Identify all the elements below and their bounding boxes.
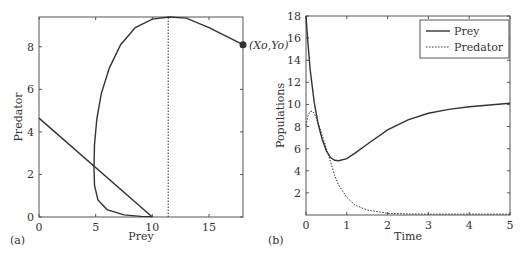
chart-panel-a: 05101502468PreyPredator(a)(Xo,Yo) [10,17,288,247]
figure: 05101502468PreyPredator(a)(Xo,Yo)0123452… [0,0,526,263]
x-tick-label: 4 [466,219,473,232]
legend-entry: Prey [454,25,480,38]
y-tick-label: 8 [294,121,301,134]
y-tick-label: 4 [294,165,301,178]
series-predator [306,111,510,214]
y-axis-label: Predator [12,92,25,142]
y-tick-label: 8 [27,41,34,54]
x-axis-label: Time [394,230,422,243]
x-tick-label: 0 [303,219,310,232]
y-tick-label: 10 [287,98,301,111]
y-tick-label: 18 [287,10,301,23]
annotation-label: (Xo,Yo) [249,39,288,52]
y-tick-label: 12 [287,76,301,89]
x-tick-label: 0 [36,221,43,234]
y-tick-label: 6 [27,83,34,96]
y-tick-label: 4 [27,126,34,139]
legend-entry: Predator [454,41,504,54]
y-tick-label: 16 [287,32,301,45]
y-axis-label: Populations [274,83,287,148]
x-tick-label: 5 [507,219,514,232]
x-tick-label: 2 [384,219,391,232]
y-tick-label: 2 [27,168,34,181]
x-tick-label: 3 [425,219,432,232]
y-tick-label: 14 [287,54,301,67]
x-tick-label: 15 [202,221,216,234]
chart-panel-b: 01234524681012141618TimePopulations(b)Pr… [268,10,514,247]
x-tick-label: 1 [343,219,350,232]
panel-label: (a) [10,234,25,247]
y-tick-label: 6 [294,143,301,156]
x-axis-label: Prey [128,230,154,243]
legend: PreyPredator [420,20,509,58]
x-tick-label: 5 [92,221,99,234]
panel-label: (b) [268,234,284,247]
initial-point-marker [240,41,247,48]
y-tick-label: 0 [27,211,34,224]
y-tick-label: 2 [294,187,301,200]
axes-frame [39,17,243,217]
